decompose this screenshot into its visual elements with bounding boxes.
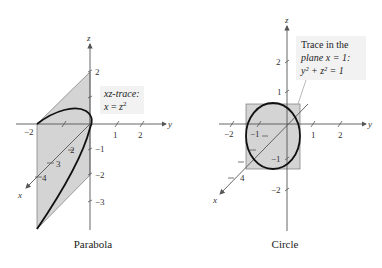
annotation-leader xyxy=(298,80,306,104)
y-tick-1: 1 xyxy=(113,130,118,140)
annotation-line2: plane x = 1: xyxy=(300,52,350,63)
y-tick-2: 2 xyxy=(338,130,343,140)
z-tick-2: 2 xyxy=(95,67,100,77)
annotation-line1: Trace in the xyxy=(301,39,349,50)
z-axis-label: z xyxy=(86,33,91,43)
caption-parabola: Parabola xyxy=(74,238,113,250)
y-axis-label: y xyxy=(367,119,372,129)
z-tick-neg2: −2 xyxy=(271,185,281,195)
z-tick-1: 1 xyxy=(277,87,282,97)
circle-figure: z y x −2 −1 1 2 2 1 −1 −2 4 Trace in the… xyxy=(212,15,372,250)
x-axis-label: x xyxy=(17,190,22,200)
z-tick-2: 2 xyxy=(276,57,281,67)
y-tick-2: 2 xyxy=(138,130,143,140)
x-tick-3: 3 xyxy=(56,159,61,169)
z-tick-neg3: −3 xyxy=(95,197,105,207)
x-tick-2: 2 xyxy=(70,145,75,155)
z-tick-neg1: −1 xyxy=(271,154,281,164)
y-tick-neg2: −2 xyxy=(24,127,34,137)
x-axis-label: x xyxy=(212,195,217,205)
figure-canvas: z y x −2 1 2 2 −1 −2 −3 2 3 4 xz-trace: … xyxy=(0,0,382,268)
y-tick-1: 1 xyxy=(311,130,316,140)
annotation-line3: y² + z² = 1 xyxy=(300,65,344,76)
y-tick-neg1: −1 xyxy=(250,129,260,139)
parabola-figure: z y x −2 1 2 2 −1 −2 −3 2 3 4 xz-trace: … xyxy=(16,33,172,250)
caption-circle: Circle xyxy=(272,238,299,250)
y-axis-label: y xyxy=(167,119,172,129)
x-tick-4: 4 xyxy=(240,173,245,183)
x-tick-4: 4 xyxy=(42,173,47,183)
y-tick-neg2: −2 xyxy=(224,129,234,139)
annotation-line1: xz-trace: xyxy=(103,88,140,99)
z-axis-label: z xyxy=(284,15,289,25)
z-tick-neg1: −1 xyxy=(95,144,105,154)
z-tick-neg2: −2 xyxy=(95,170,105,180)
